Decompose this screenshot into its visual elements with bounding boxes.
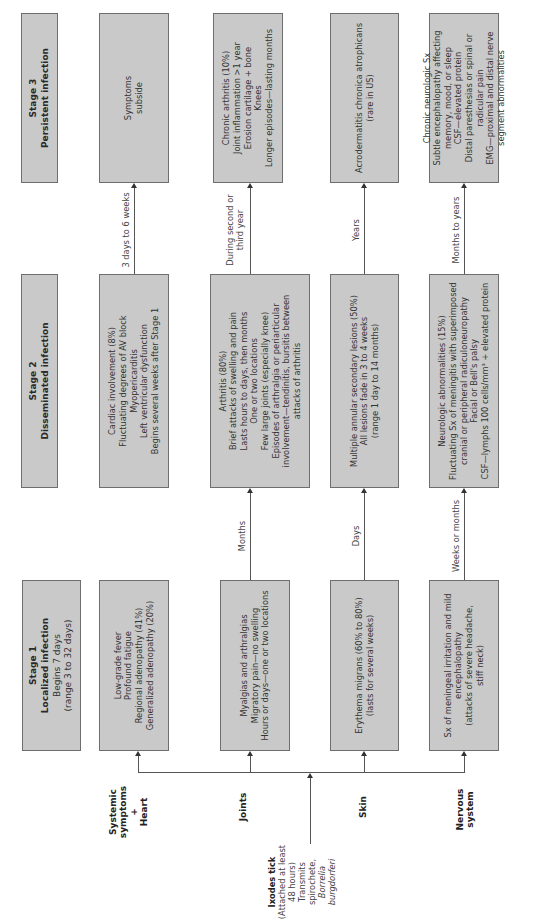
nervous-stage-1-box: Sx of meningeal irritation and mild ence… (429, 580, 499, 751)
distribution-bus (138, 772, 465, 773)
stage-2-header: Stage 2 Disseminated infection (21, 274, 58, 488)
cell-line: One or two locations (249, 295, 260, 468)
cell-line: memory, mood, or sleep (443, 30, 454, 165)
cell-line: Multiple annular secondary lesions (50%) (349, 295, 360, 467)
row-label-systemic: Systemic symptoms + Heart (108, 782, 149, 842)
cell-line: Sx of meningeal irritation and mild (443, 593, 454, 737)
cell-line: Chronic neurologic Sx (422, 30, 433, 165)
cell-line: Acrodermatitis chronica atrophicans (354, 23, 365, 173)
cell-line: encephalopathy (453, 593, 464, 737)
joints-stage-2-box: Arthritis (80%) Brief attacks of swellin… (210, 274, 310, 488)
skin-stage-3-box: Acrodermatitis chronica atrophicans (rar… (330, 13, 399, 183)
arrowhead-icon (247, 751, 253, 756)
label-line: + (129, 808, 139, 816)
cell-line: Longer episodes—lasting months (264, 29, 275, 167)
bus-to-joints (250, 756, 251, 773)
systemic-s2-s3-connector (134, 188, 135, 274)
label-line: Transmits (297, 862, 307, 902)
nervous-stage-3-box: Chronic neurologic Sx Subtle encephalopa… (429, 13, 499, 183)
arrowhead-icon (361, 751, 367, 756)
stage-3-subtitle: Persistent infection (40, 48, 52, 148)
stage-1-onset: Begins 7 days (52, 618, 64, 713)
cell-line: All lesions fade in 3 to 4 weeks (359, 295, 370, 467)
arrowhead-icon (461, 488, 467, 493)
label-line: symptoms (118, 786, 128, 838)
systemic-stage-2-box: Cardiac involvement (8%) Fluctuating deg… (99, 274, 169, 488)
label-line: Nervous (455, 789, 465, 831)
label-line: spirochete, (307, 859, 317, 905)
nervous-s1-s2-label: Weeks or months (452, 494, 462, 578)
arrowhead-icon (361, 488, 367, 493)
label-line: third year (235, 210, 245, 251)
cell-line: Migratory pain—no swelling (250, 590, 261, 740)
cell-line: CSF—elevated protein (453, 30, 464, 165)
label-line: Heart (139, 798, 149, 826)
cell-line: Myopericarditis (129, 308, 140, 454)
tick-title: Ixodes tick (267, 857, 277, 908)
systemic-stage-3-box: Symptoms subside (99, 13, 169, 183)
systemic-s2-s3-label: 3 days to 6 weeks (122, 188, 132, 272)
row-label-skin: Skin (358, 782, 368, 832)
skin-s2-s3-connector (364, 188, 365, 274)
nervous-s2-s3-label: Months to years (452, 188, 462, 272)
row-label-joints: Joints (238, 782, 248, 832)
stage-1-title: Stage 1 (28, 618, 40, 713)
cell-line: Generalized adenopathy (20%) (145, 601, 156, 730)
cell-line: EMG—proximal and distal nerve (485, 30, 496, 165)
skin-s2-s3-label: Years (352, 188, 362, 272)
cell-line: involvement—tendinitis, bursitis between (281, 295, 292, 468)
cell-line: Joint inflammation >1 year (232, 29, 243, 167)
label-line: (Attached at least (277, 845, 287, 919)
stage-3-title: Stage 3 (28, 48, 40, 148)
arrowhead-icon (307, 773, 313, 778)
bus-to-nervous (464, 756, 465, 773)
cell-line: Myalgias and arthralgias (239, 590, 250, 740)
cell-line: Left ventricular dysfunction (139, 308, 150, 454)
arrowhead-icon (461, 751, 467, 756)
cell-line: Cardiac involvement (8%) (107, 308, 118, 454)
cell-line: Begins several weeks after Stage 1 (150, 308, 161, 454)
cell-line: (lasts for several weeks) (365, 597, 376, 733)
nervous-s2-s3-connector (464, 188, 465, 274)
cell-line: Facial or Bell's palsy (469, 282, 480, 480)
cell-line: Regional adenopathy (41%) (134, 601, 145, 730)
cell-line: Brief attacks of swelling and pain (228, 295, 239, 468)
skin-s1-s2-connector (364, 493, 365, 580)
stage-1-header: Stage 1 Localized infection Begins 7 day… (22, 580, 81, 751)
cell-line: Erythema migrans (60% to 80%) (354, 597, 365, 733)
cell-line: subside (134, 76, 145, 120)
arrowhead-icon (247, 183, 253, 188)
cell-line: Few large joints (especially knee) (260, 295, 271, 468)
cell-line: Profound fatigue (123, 601, 134, 730)
cell-line: Episodes of arthralgia or periarticular (271, 295, 282, 468)
systemic-stage-1-box: Low-grade fever Profound fatigue Regiona… (99, 580, 169, 751)
label-line: Systemic (108, 789, 118, 835)
cell-line: Lasts hours to days, then months (239, 295, 250, 468)
cell-line: cranial or peripheral radiculoneuropathy (459, 282, 470, 480)
cell-line: Fluctuating Sx of meningitis with superi… (448, 282, 459, 480)
cell-line: Erosion cartilage + bone (243, 29, 254, 167)
tick-input-line (310, 778, 311, 844)
cell-line: Chronic arthritis (10%) (221, 29, 232, 167)
joints-stage-1-box: Myalgias and arthralgias Migratory pain—… (220, 580, 290, 751)
cell-line: Arthritis (80%) (218, 295, 229, 468)
cell-line: attacks of arthritis (292, 295, 303, 468)
cell-line: CSF—lymphs 100 cells/mm³ + elevated prot… (480, 282, 491, 480)
nervous-stage-2-box: Neurologic abnormalities (15%) Fluctuati… (429, 274, 499, 488)
row-label-nervous: Nervous system (455, 782, 476, 837)
label-line: Skin (358, 796, 368, 818)
tick-origin-label: Ixodes tick (Attached at least 48 hours)… (268, 844, 338, 920)
lyme-disease-stage-diagram: Stage 1 Localized infection Begins 7 day… (0, 0, 544, 922)
skin-s1-s2-label: Days (352, 494, 362, 578)
joints-s1-s2-label: Months (238, 494, 248, 578)
joints-s2-s3-label: During second or third year (226, 188, 246, 272)
cell-line: Neurologic abnormalities (15%) (437, 282, 448, 480)
arrowhead-icon (247, 488, 253, 493)
cell-line: segment abnormalities (496, 30, 507, 165)
skin-stage-1-box: Erythema migrans (60% to 80%) (lasts for… (330, 580, 399, 751)
arrowhead-icon (135, 751, 141, 756)
cell-line: (attacks of severe headache, (464, 593, 475, 737)
stage-3-header: Stage 3 Persistent infection (21, 13, 58, 183)
label-line: 48 hours) (287, 862, 297, 902)
joints-s1-s2-connector (250, 493, 251, 580)
